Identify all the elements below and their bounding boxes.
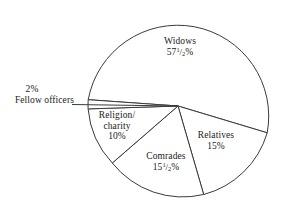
pie-chart-figure: Widows 571/2% Relatives 15% Comrades 151… — [0, 0, 285, 211]
slice-label-comrades-name: Comrades — [131, 151, 201, 162]
slice-label-widows-value: 571/2% — [128, 47, 232, 58]
slice-label-relatives: Relatives 15% — [185, 130, 247, 151]
slice-label-religion-line2: charity — [86, 121, 148, 132]
slice-label-fellow-officers: 2% Fellow officers — [2, 84, 74, 105]
slice-label-religion-line1: Religion/ — [86, 110, 148, 121]
slice-label-religion-value: 10% — [86, 131, 148, 142]
slice-label-relatives-name: Relatives — [185, 130, 247, 141]
slice-label-relatives-value: 15% — [185, 141, 247, 152]
slice-label-fellow-name: Fellow officers — [2, 95, 74, 106]
slice-label-widows: Widows 571/2% — [128, 36, 232, 57]
slice-label-fellow-value: 2% — [2, 84, 74, 95]
slice-label-widows-name: Widows — [128, 36, 232, 47]
slice-label-religion-charity: Religion/ charity 10% — [86, 110, 148, 142]
slice-label-comrades-value: 151/2% — [131, 162, 201, 173]
slice-label-comrades: Comrades 151/2% — [131, 151, 201, 172]
pie-chart-graphic — [0, 0, 285, 211]
